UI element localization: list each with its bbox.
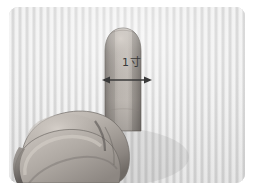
index-finger-left-shadow [105,30,115,131]
photo-plate: 1寸 [9,7,245,183]
folded-fist [13,111,129,183]
hand-photograph [9,7,245,183]
hand-vector [9,7,245,183]
figure-root: 1寸 [0,0,254,192]
index-finger [105,28,141,131]
index-finger-right-shadow [132,30,141,131]
